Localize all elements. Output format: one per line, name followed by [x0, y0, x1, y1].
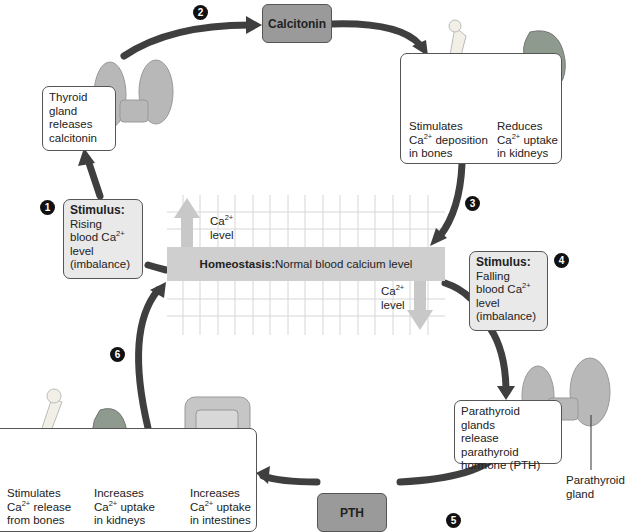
bone-deposition-text: Stimulates Ca2+ deposition in bones [409, 120, 488, 161]
arrow-6 [139, 290, 158, 428]
thyroid-text-line: calcitonin [49, 132, 109, 146]
thyroid-text-line: releases [49, 118, 109, 132]
arrow-homeo-to-stim4 [445, 283, 470, 298]
arrow-calcitonin-to-effects [332, 24, 420, 45]
stimulus-falling-box: Stimulus: Falling blood Ca2+ level (imba… [469, 251, 548, 331]
step-5-marker: 5 [446, 513, 461, 528]
calcitonin-box: Calcitonin [262, 4, 332, 43]
parathyroid-text-line: Parathyroid [461, 405, 555, 419]
thyroid-text-line: Thyroid [49, 91, 109, 105]
step-4-marker: 4 [554, 253, 569, 268]
parathyroid-box: Parathyroid glands release parathyroid h… [454, 400, 562, 464]
thyroid-text-line: gland [49, 105, 109, 119]
kidney-reduce-text: Reduces Ca2+ uptake in kidneys [497, 120, 558, 161]
parathyroid-text-line: glands [461, 419, 555, 433]
step-6-marker: 6 [110, 347, 125, 362]
step-3-marker: 3 [465, 196, 480, 211]
stimulus-rising-box: Stimulus: Rising blood Ca2+ level (imbal… [63, 199, 143, 279]
step-2-marker: 2 [193, 5, 208, 20]
ca-falling-arrow [407, 281, 433, 330]
arrow-pth-to-effects [263, 476, 317, 482]
bone-release-text: Stimulates Ca2+ release from bones [7, 487, 71, 528]
thyroid-box: Thyroid gland releases calcitonin [42, 86, 116, 151]
pth-effects-box: Stimulates Ca2+ release from bones Incre… [0, 428, 257, 532]
intestine-increase-text: Increases Ca2+ uptake in intestines [190, 487, 251, 528]
arrow-3 [440, 164, 462, 236]
arrow-4 [490, 328, 506, 388]
ca-rising-arrow [174, 198, 200, 247]
calcitonin-effects-box: Stimulates Ca2+ deposition in bones Redu… [400, 53, 562, 164]
parathyroid-text-line: hormone (PTH) [461, 459, 555, 473]
arrow-stim1-to-homeo [148, 265, 166, 270]
kidney-increase-text: Increases Ca2+ uptake in kidneys [94, 487, 155, 528]
parathyroid-gland-label: Parathyroid gland [566, 474, 625, 501]
ca-rising-label: Ca2+ level [210, 215, 234, 242]
arrow-2 [124, 25, 250, 56]
arrow-1 [88, 160, 100, 196]
parathyroid-text-line: release parathyroid [461, 432, 555, 459]
step-1-marker: 1 [40, 200, 55, 215]
ca-falling-label: Ca2+ level [381, 285, 405, 312]
pth-box: PTH [317, 493, 387, 532]
homeostasis-bar: Homeostasis: Normal blood calcium level [167, 247, 445, 281]
